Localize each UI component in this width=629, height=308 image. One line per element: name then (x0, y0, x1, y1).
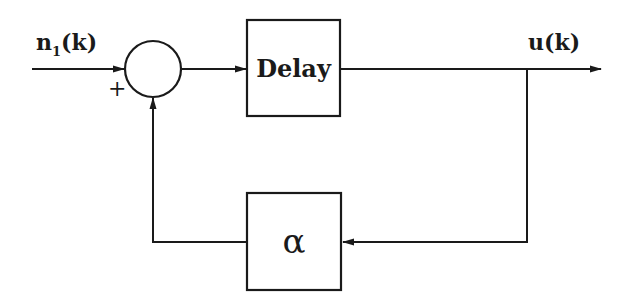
delay-block: Delay (247, 20, 340, 116)
feedback-branch-wire (343, 69, 527, 242)
delay-block-label: Delay (256, 54, 332, 83)
output-signal-label: u(k) (528, 29, 580, 55)
gain-block-label: α (283, 221, 306, 261)
plus-sign: + (108, 76, 126, 101)
feedback-return-wire (153, 98, 247, 242)
summing-junction-circle (125, 41, 181, 97)
input-signal-label: n1(k) (36, 29, 97, 59)
gain-block: α (247, 193, 341, 290)
block-diagram: n1(k) + Delay u(k) α (0, 0, 629, 308)
